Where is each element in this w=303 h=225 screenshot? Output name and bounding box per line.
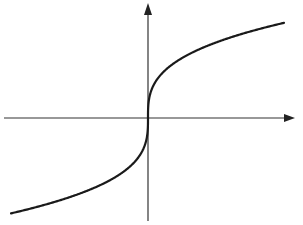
x-axis-arrowhead-icon	[284, 114, 295, 122]
cube-root-plot	[0, 0, 303, 225]
axes	[4, 3, 295, 221]
y-axis-arrowhead-icon	[144, 3, 152, 15]
